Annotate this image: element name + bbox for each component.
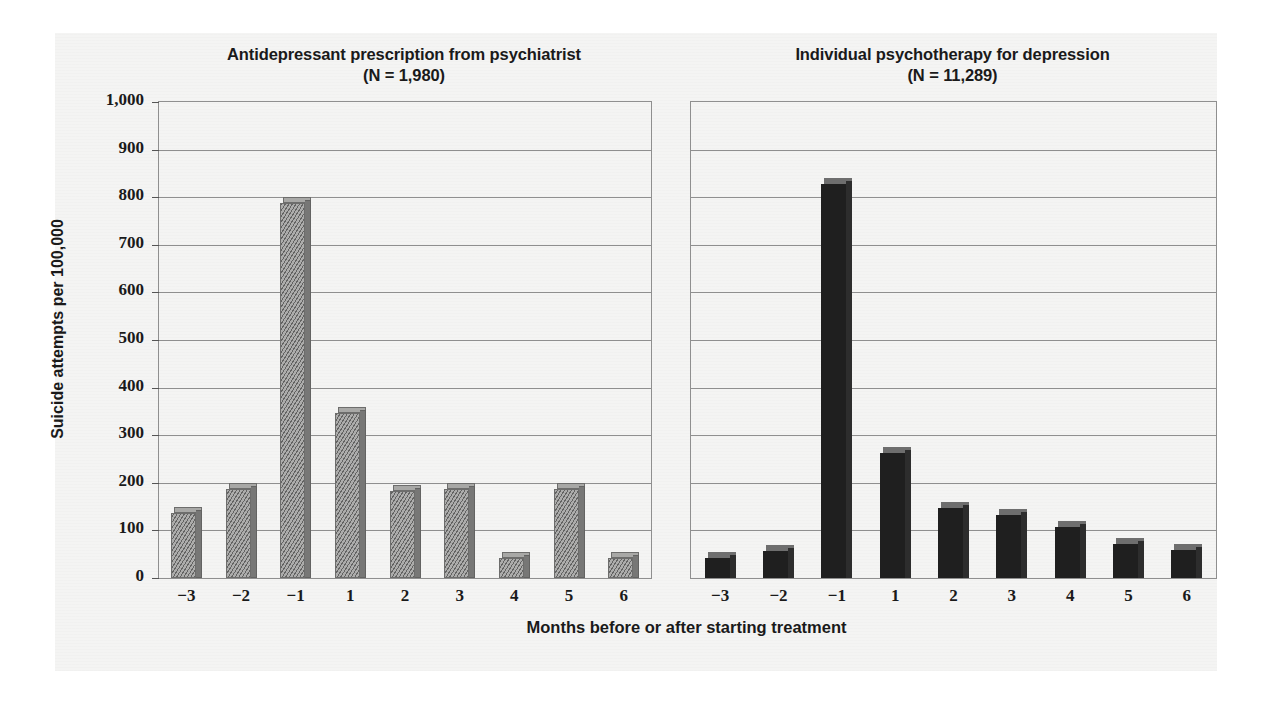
y-axis-tick-mark bbox=[152, 292, 159, 293]
y-axis-tick-mark bbox=[152, 388, 159, 389]
bar-side-face bbox=[963, 505, 969, 578]
x-tick-label: 2 bbox=[924, 586, 984, 606]
panel-title-right-line2: (N = 11,289) bbox=[690, 65, 1215, 86]
bar-front-face bbox=[444, 489, 469, 578]
y-tick-label: 900 bbox=[58, 138, 144, 158]
bar bbox=[335, 407, 366, 578]
bar-side-face bbox=[1196, 547, 1202, 578]
y-tick-label: 700 bbox=[58, 233, 144, 253]
bar-side-face bbox=[251, 486, 257, 578]
bar-side-face bbox=[846, 181, 852, 578]
bar-front-face bbox=[996, 515, 1021, 578]
bar bbox=[226, 483, 257, 578]
x-axis-title: Months before or after starting treatmen… bbox=[158, 618, 1215, 637]
bar bbox=[390, 485, 421, 578]
x-tick-label: 6 bbox=[594, 586, 654, 606]
x-tick-label: 6 bbox=[1157, 586, 1217, 606]
bar bbox=[280, 197, 311, 578]
bar bbox=[499, 552, 530, 578]
y-tick-label: 1,000 bbox=[58, 90, 144, 110]
panel-title-left-line2: (N = 1,980) bbox=[158, 65, 650, 86]
y-axis-tick-mark bbox=[152, 245, 159, 246]
bar-front-face bbox=[280, 203, 305, 578]
y-axis-tick-mark bbox=[152, 340, 159, 341]
bar bbox=[1113, 538, 1144, 578]
bar bbox=[171, 507, 202, 578]
y-tick-label: 400 bbox=[58, 376, 144, 396]
bar-side-face bbox=[730, 555, 736, 578]
bar-side-face bbox=[196, 510, 202, 578]
bar-side-face bbox=[305, 200, 311, 578]
x-tick-label: 5 bbox=[539, 586, 599, 606]
bar-front-face bbox=[938, 508, 963, 578]
y-axis-tick-mark bbox=[152, 435, 159, 436]
bar bbox=[608, 552, 639, 578]
x-tick-label: 1 bbox=[865, 586, 925, 606]
y-axis-tick-mark bbox=[152, 102, 159, 103]
bar bbox=[1055, 521, 1086, 578]
y-tick-label: 300 bbox=[58, 423, 144, 443]
x-tick-label: 5 bbox=[1099, 586, 1159, 606]
y-axis-tick-mark bbox=[152, 578, 159, 579]
figure: Antidepressant prescription from psychia… bbox=[0, 0, 1266, 702]
bar-front-face bbox=[335, 413, 360, 578]
x-tick-label: 4 bbox=[484, 586, 544, 606]
x-tick-label: 3 bbox=[430, 586, 490, 606]
y-axis-tick-mark bbox=[152, 483, 159, 484]
panel-title-right-line1: Individual psychotherapy for depression bbox=[690, 44, 1215, 65]
bar-group-antidepressant bbox=[159, 102, 651, 578]
bar bbox=[705, 552, 736, 578]
bar-front-face bbox=[499, 558, 524, 578]
x-tick-label: −1 bbox=[807, 586, 867, 606]
bar-front-face bbox=[1171, 550, 1196, 578]
bar-side-face bbox=[579, 486, 585, 578]
y-tick-label: 0 bbox=[58, 566, 144, 586]
y-tick-label: 800 bbox=[58, 185, 144, 205]
bar-front-face bbox=[763, 551, 788, 578]
bar-side-face bbox=[633, 555, 639, 578]
x-tick-label: 3 bbox=[982, 586, 1042, 606]
chart-panel-psychotherapy: −3−2−1123456 bbox=[690, 101, 1217, 579]
bar bbox=[880, 447, 911, 578]
x-tick-label: −3 bbox=[690, 586, 750, 606]
y-axis-tick-mark bbox=[152, 150, 159, 151]
bar-side-face bbox=[1021, 512, 1027, 578]
bar-side-face bbox=[415, 488, 421, 578]
bar-side-face bbox=[1080, 524, 1086, 578]
bar-front-face bbox=[226, 489, 251, 578]
panel-title-left: Antidepressant prescription from psychia… bbox=[158, 44, 650, 87]
bar bbox=[996, 509, 1027, 578]
bar bbox=[554, 483, 585, 578]
x-tick-label: −3 bbox=[156, 586, 216, 606]
bar-front-face bbox=[1113, 544, 1138, 578]
bar-front-face bbox=[171, 513, 196, 578]
bar bbox=[763, 545, 794, 578]
bar-front-face bbox=[608, 558, 633, 578]
panel-title-right: Individual psychotherapy for depression … bbox=[690, 44, 1215, 87]
bar bbox=[1171, 544, 1202, 578]
bar-front-face bbox=[390, 491, 415, 578]
bar-side-face bbox=[524, 555, 530, 578]
x-tick-label: −2 bbox=[211, 586, 271, 606]
x-tick-label: −1 bbox=[266, 586, 326, 606]
x-tick-label: 1 bbox=[320, 586, 380, 606]
bar-side-face bbox=[788, 548, 794, 578]
y-axis-tick-mark bbox=[152, 197, 159, 198]
bar-front-face bbox=[821, 184, 846, 578]
bar-side-face bbox=[1138, 541, 1144, 578]
x-tick-label: −2 bbox=[749, 586, 809, 606]
bar bbox=[821, 178, 852, 578]
chart-panel-antidepressant: −3−2−1123456 bbox=[158, 101, 652, 579]
bar bbox=[938, 502, 969, 578]
y-tick-label: 100 bbox=[58, 518, 144, 538]
bar-side-face bbox=[905, 450, 911, 578]
bar-side-face bbox=[360, 410, 366, 578]
bar-front-face bbox=[554, 489, 579, 578]
y-tick-label: 600 bbox=[58, 280, 144, 300]
x-tick-label: 2 bbox=[375, 586, 435, 606]
bar-side-face bbox=[469, 486, 475, 578]
bar-front-face bbox=[705, 558, 730, 578]
y-tick-label: 200 bbox=[58, 471, 144, 491]
bar-front-face bbox=[1055, 527, 1080, 578]
x-tick-label: 4 bbox=[1040, 586, 1100, 606]
